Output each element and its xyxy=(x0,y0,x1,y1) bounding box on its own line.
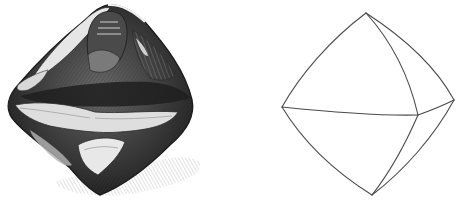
figure: Rough diamond crystal (engraving) beside… xyxy=(0,0,459,207)
edge-top-front-right xyxy=(366,13,418,115)
octahedron-diagram xyxy=(282,13,454,195)
rough-diamond-engraving xyxy=(8,5,200,196)
edge-front-right-bottom xyxy=(372,115,418,195)
edge-top-left xyxy=(282,13,366,107)
edge-equator-front xyxy=(282,107,418,115)
figure-canvas xyxy=(0,0,459,207)
edge-left-bottom xyxy=(282,107,372,195)
edge-equator-right xyxy=(418,100,454,115)
